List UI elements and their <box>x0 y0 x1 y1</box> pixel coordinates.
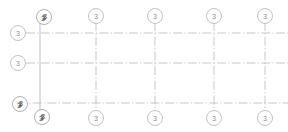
grid-bubble-top[interactable]: 333 <box>37 10 52 25</box>
grid-bubble-label: 3 <box>94 114 98 123</box>
grid-bubble-label-overlay: 3 <box>17 101 21 110</box>
grid-bubble-label: 3 <box>153 114 157 123</box>
grid-bubble-label: 3 <box>153 12 157 21</box>
grid-bubble-top[interactable]: 3 <box>207 9 222 24</box>
grid-bubble-bottom[interactable]: 3 <box>258 111 273 126</box>
grid-bubble-bottom[interactable]: 3 <box>207 111 222 126</box>
grid-bubble-label: 3 <box>16 59 20 68</box>
horizontal-gridline-group <box>18 33 288 103</box>
grid-bubble-bottom[interactable]: 333 <box>35 110 50 125</box>
grid-bubble-group: 3333333333333333333 <box>11 9 273 126</box>
grid-bubble-left[interactable]: 3 <box>11 26 26 41</box>
grid-bubble-label: 3 <box>16 29 20 38</box>
grid-bubble-left[interactable]: 333 <box>13 97 28 112</box>
grid-bubble-label: 3 <box>263 114 267 123</box>
structural-grid-drawing[interactable]: 3333333333333333333 <box>0 0 288 132</box>
grid-bubble-label: 3 <box>94 12 98 21</box>
cad-drawing-canvas[interactable]: 3333333333333333333 <box>0 0 288 132</box>
grid-bubble-top[interactable]: 3 <box>258 9 273 24</box>
grid-bubble-label: 3 <box>263 12 267 21</box>
grid-bubble-top[interactable]: 3 <box>148 9 163 24</box>
grid-bubble-bottom[interactable]: 3 <box>89 111 104 126</box>
grid-bubble-left[interactable]: 3 <box>11 56 26 71</box>
grid-bubble-label-overlay: 3 <box>41 14 45 23</box>
grid-bubble-label: 3 <box>212 114 216 123</box>
grid-bubble-label: 3 <box>212 12 216 21</box>
grid-bubble-bottom[interactable]: 3 <box>148 111 163 126</box>
grid-bubble-top[interactable]: 3 <box>89 9 104 24</box>
grid-bubble-label-overlay: 3 <box>39 114 43 123</box>
